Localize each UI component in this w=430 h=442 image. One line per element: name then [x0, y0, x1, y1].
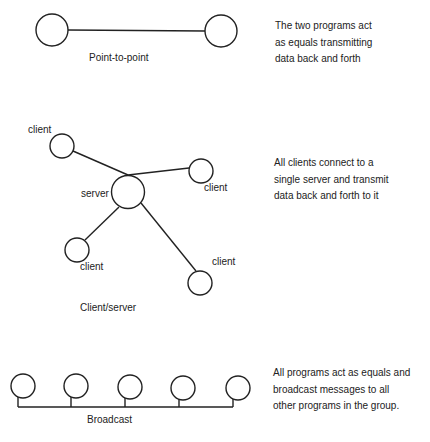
point-to-point-diagram	[36, 14, 237, 47]
link-client-bottomleft	[85, 207, 119, 240]
server-node	[112, 176, 145, 209]
p2p-caption: Point-to-point	[89, 52, 148, 64]
client-label-bottomleft: client	[80, 261, 103, 273]
server-label: server	[81, 188, 109, 200]
broadcast-node-4	[171, 376, 195, 400]
link-client-bottomright	[141, 203, 196, 271]
broadcast-diagram	[11, 374, 250, 407]
client-label-right: client	[204, 182, 227, 194]
link-client-topleft	[73, 151, 128, 175]
p2p-description: The two programs act as equals transmitt…	[275, 18, 430, 68]
broadcast-node-3	[118, 375, 142, 399]
broadcast-node-5	[226, 376, 250, 400]
client-node-bottomleft	[65, 238, 89, 262]
broadcast-description: All programs act as equals and broadcast…	[273, 365, 430, 415]
p2p-node-right	[205, 15, 237, 47]
client-node-bottomright	[188, 271, 212, 295]
link-client-right	[128, 168, 189, 175]
client-server-caption: Client/server	[80, 302, 136, 314]
client-node-right	[189, 159, 213, 183]
broadcast-node-1	[11, 374, 35, 398]
p2p-link	[68, 30, 205, 31]
broadcast-caption: Broadcast	[87, 414, 132, 426]
client-label-bottomright: client	[212, 256, 235, 268]
client-node-topleft	[50, 134, 74, 158]
p2p-node-left	[36, 14, 68, 46]
client-label-topleft: client	[28, 124, 51, 136]
broadcast-node-2	[64, 374, 88, 398]
client-server-diagram	[50, 134, 213, 295]
client-server-description: All clients connect to a single server a…	[274, 155, 430, 205]
